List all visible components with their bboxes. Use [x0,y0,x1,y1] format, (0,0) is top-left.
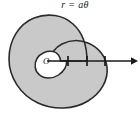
equation-label: r = aθ [52,0,98,11]
spiral-figure: r = aθ O [0,0,140,117]
origin-label: O [43,56,50,66]
polar-axis-arrowhead [131,57,138,65]
spiral-figure-canvas [0,0,140,117]
